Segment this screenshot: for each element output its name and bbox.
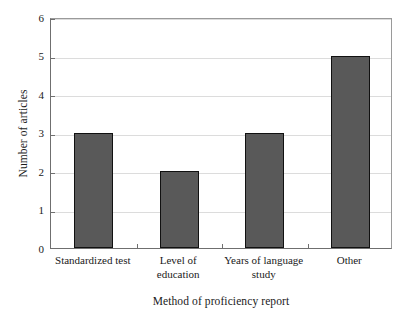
y-tick-mark: [51, 135, 55, 136]
bar: [245, 133, 284, 249]
x-tick-mark: [137, 244, 138, 248]
x-tick-mark: [222, 244, 223, 248]
y-tick-label: 2: [26, 167, 44, 178]
y-tick-label: 0: [26, 244, 44, 255]
y-tick-label: 1: [26, 205, 44, 216]
y-tick-mark: [51, 96, 55, 97]
y-axis-tick-labels: 0123456: [26, 18, 44, 249]
y-tick-label: 4: [26, 90, 44, 101]
x-axis-tick-labels: Standardized testLevel ofeducationYears …: [50, 254, 392, 288]
y-tick-label: 5: [26, 51, 44, 62]
bar-chart-figure: Number of articles 0123456 Standardized …: [0, 0, 409, 322]
y-tick-mark: [51, 173, 55, 174]
y-tick-label: 3: [26, 128, 44, 139]
x-tick-label: Standardized test: [50, 254, 136, 268]
bar: [74, 133, 113, 249]
plot-area: [50, 18, 392, 249]
y-tick-label: 6: [26, 13, 44, 24]
x-tick-label: Other: [307, 254, 393, 268]
x-tick-label: Years of languagestudy: [221, 254, 307, 281]
y-tick-mark: [51, 19, 55, 20]
gridline: [51, 19, 391, 20]
x-tick-label: Level ofeducation: [136, 254, 222, 281]
bar: [331, 56, 370, 249]
x-tick-mark: [308, 244, 309, 248]
y-tick-mark: [51, 58, 55, 59]
y-tick-mark: [51, 212, 55, 213]
x-axis-title: Method of proficiency report: [50, 294, 392, 308]
bar: [160, 171, 199, 248]
